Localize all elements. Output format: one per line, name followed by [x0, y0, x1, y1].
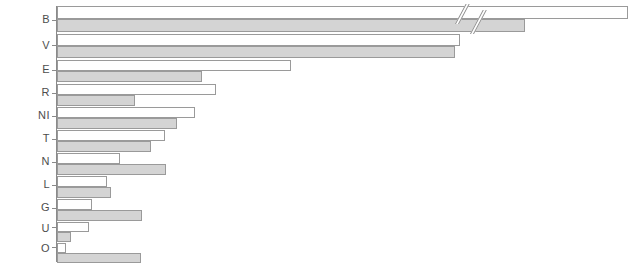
y-axis-label-0: B	[4, 14, 50, 25]
chart-container: B V E R NI T N L G U O	[0, 0, 632, 266]
bar-gray-e	[57, 71, 202, 82]
y-axis-label-6: N	[4, 156, 50, 167]
bar-white-n	[57, 153, 120, 164]
y-axis-labels: B V E R NI T N L G U O	[0, 0, 50, 266]
y-axis-label-3: R	[4, 87, 50, 98]
bar-gray-n	[57, 164, 166, 175]
plot-area	[0, 0, 632, 266]
bar-gray-o	[57, 253, 141, 263]
bar-gray-ni	[57, 118, 177, 129]
y-axis-label-8: G	[4, 202, 50, 213]
bar-white-l	[57, 176, 107, 187]
bar-gray-v	[57, 46, 455, 58]
bar-white-g	[57, 199, 92, 210]
y-axis-label-2: E	[4, 64, 50, 75]
bar-white-t	[57, 130, 165, 141]
bar-gray-t	[57, 141, 151, 152]
bar-white-ni	[57, 107, 195, 118]
y-axis-label-9: U	[4, 223, 50, 234]
bar-white-b	[57, 6, 628, 19]
bar-white-o	[57, 243, 66, 253]
bar-white-r	[57, 84, 216, 95]
bar-gray-r	[57, 95, 135, 106]
y-axis-label-4: NI	[4, 110, 50, 121]
bar-white-v	[57, 34, 460, 46]
bar-white-e	[57, 60, 291, 71]
y-axis-label-5: T	[4, 133, 50, 144]
bar-gray-g	[57, 210, 142, 221]
y-axis-label-7: L	[4, 179, 50, 190]
bar-gray-l	[57, 187, 111, 198]
y-axis-label-1: V	[4, 40, 50, 51]
y-axis-label-10: O	[4, 243, 50, 254]
bar-white-u	[57, 222, 89, 232]
bar-gray-b	[57, 19, 525, 32]
bar-gray-u	[57, 232, 71, 242]
